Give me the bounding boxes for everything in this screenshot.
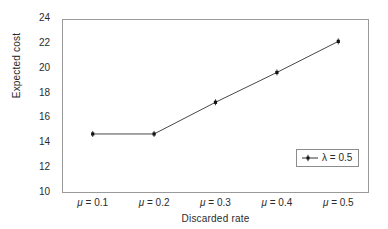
x-tick-label: μ = 0.5 [323, 197, 354, 208]
y-tick-label: 18 [39, 87, 50, 98]
x-tick-label: μ = 0.1 [77, 197, 108, 208]
y-tick-label: 22 [39, 37, 50, 48]
data-point-marker [214, 99, 217, 105]
chart-legend: λ = 0.5 [296, 149, 359, 167]
x-tick-label: μ = 0.2 [139, 197, 170, 208]
y-tick-label: 14 [39, 136, 50, 147]
x-tick-label: μ = 0.4 [261, 197, 292, 208]
y-tick-label: 16 [39, 111, 50, 122]
series-line [93, 41, 339, 134]
x-tick-label: μ = 0.3 [200, 197, 231, 208]
data-point-marker [91, 131, 94, 137]
y-tick-label: 12 [39, 161, 50, 172]
y-tick-label: 24 [39, 12, 50, 23]
data-point-marker [275, 69, 278, 75]
x-axis-title: Discarded rate [62, 213, 369, 224]
legend-entry-label: λ = 0.5 [322, 152, 352, 163]
y-axis-title: Expected cost [11, 6, 22, 126]
y-tick-label: 20 [39, 62, 50, 73]
data-point-marker [337, 38, 340, 44]
data-point-marker [153, 131, 156, 137]
chart-figure: Expected cost 1012141618202224 μ = 0.1μ … [0, 0, 388, 229]
y-tick-label: 10 [39, 186, 50, 197]
legend-line-marker-icon [302, 154, 318, 162]
